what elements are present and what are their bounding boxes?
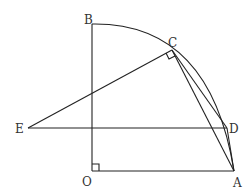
segment-CA (172, 50, 234, 171)
label-E: E (15, 122, 24, 136)
arc-BA (92, 24, 234, 171)
segment-EC (28, 50, 172, 128)
segment-CD (172, 50, 227, 128)
label-C: C (168, 36, 177, 50)
label-D: D (229, 122, 239, 136)
right-angle-mark-O (92, 164, 99, 171)
geometry-diagram: B C D E O A (0, 0, 252, 194)
label-O: O (82, 175, 92, 189)
label-A: A (232, 176, 242, 190)
label-B: B (84, 13, 93, 27)
